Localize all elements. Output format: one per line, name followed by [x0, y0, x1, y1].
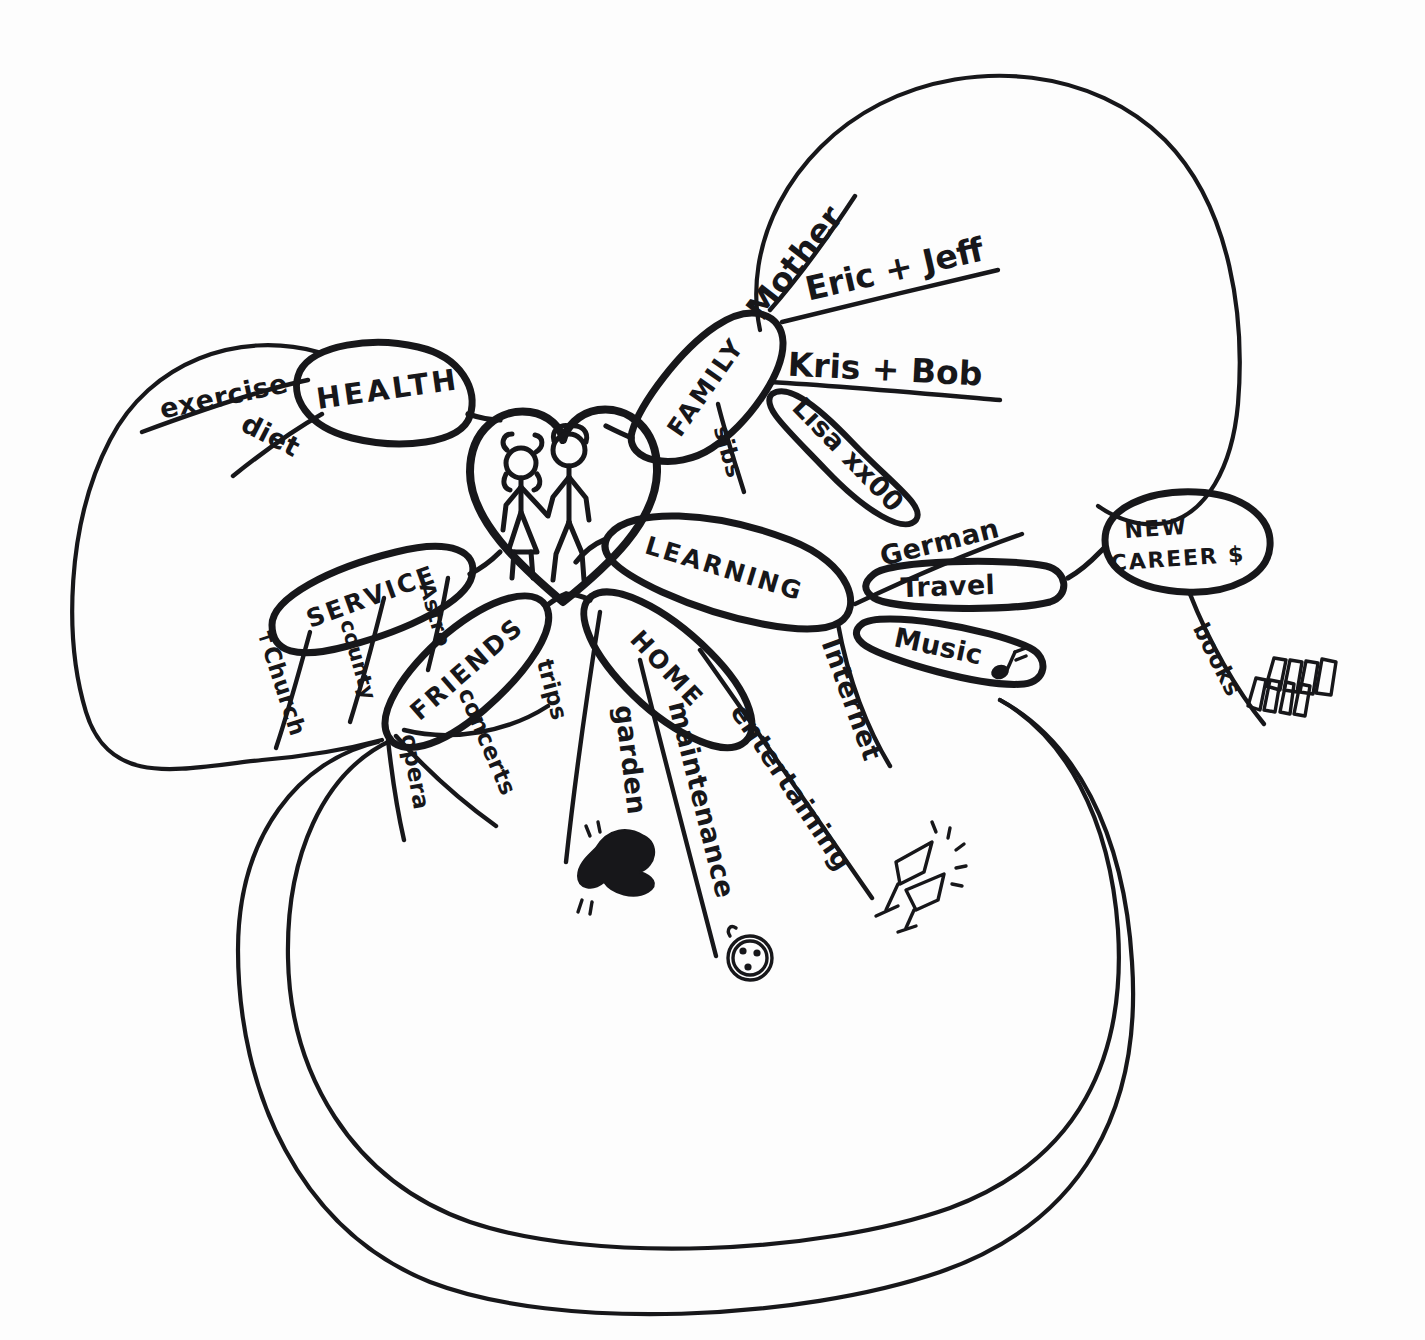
- mind-map-canvas: HEALTH exercise diet FAMILY Mother Eric …: [0, 0, 1425, 1340]
- stick-figure-couple: [503, 426, 589, 580]
- branch-health[interactable]: HEALTH exercise diet: [142, 342, 500, 476]
- branch-family[interactable]: FAMILY Mother Eric + Jeff Kris + Bob sib…: [606, 196, 1000, 524]
- sub-label-concerts: concerts: [453, 684, 521, 799]
- sub-label-exercise: exercise: [157, 367, 291, 424]
- wreath-face-doodle-icon: [728, 927, 772, 980]
- sub-label-diet: diet: [237, 407, 306, 462]
- champagne-glasses-doodle-icon: [876, 822, 966, 932]
- grouping-blobs: [72, 76, 1239, 1314]
- connector-family-to-center: [606, 426, 632, 438]
- branch-friends[interactable]: FRIENDS opera concerts trips: [385, 594, 573, 840]
- connector-travel-to-career: [1068, 548, 1104, 578]
- sub-label-astro: Astro: [414, 580, 455, 649]
- branch-new-career[interactable]: NEW CAREER $ books: [1068, 492, 1336, 724]
- twig-garden: [566, 612, 600, 862]
- career-label-line1: NEW: [1124, 514, 1189, 543]
- sub-label-books: books: [1188, 618, 1247, 700]
- sub-label-garden: garden: [609, 703, 653, 816]
- sub-label-travel: Travel: [900, 569, 996, 603]
- bookshelf-doodle-icon: [1248, 658, 1336, 716]
- sub-label-sibs: sibs: [709, 423, 749, 481]
- plant-doodle-icon: [578, 822, 654, 914]
- sub-label-lisa: Lisa xx00: [787, 391, 911, 518]
- sub-label-entertaining: entertaining: [724, 698, 858, 876]
- branch-label-health: HEALTH: [314, 362, 461, 416]
- music-note-icon: [991, 648, 1026, 680]
- mind-map-drawing: HEALTH exercise diet FAMILY Mother Eric …: [0, 0, 1425, 1340]
- branch-service[interactable]: SERVICE ✝Church county Astro: [252, 546, 500, 748]
- career-label-line2: CAREER $: [1110, 541, 1246, 575]
- sub-label-church: ✝Church: [252, 624, 311, 739]
